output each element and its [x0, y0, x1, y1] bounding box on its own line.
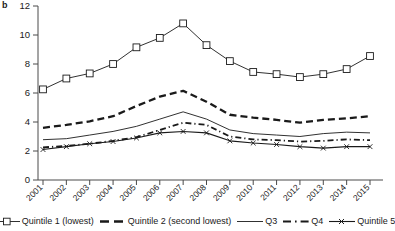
legend-item[interactable]: Quintile 5: [329, 216, 395, 227]
data-point-marker: [180, 20, 187, 27]
series-1: [40, 20, 374, 93]
x-axis-ticks: 2001200220032004200520062007200820092010…: [24, 180, 372, 203]
legend-key-line-solid-thin-icon: [237, 216, 263, 227]
x-axis: 2001200220032004200520062007200820092010…: [24, 180, 383, 203]
series-layer: [40, 20, 374, 152]
data-point-marker: [133, 44, 140, 51]
series-5: [41, 129, 373, 152]
x-tick-label: 2012: [281, 182, 302, 203]
x-tick-label: 2005: [117, 182, 138, 203]
x-tick-label: 2002: [47, 182, 68, 203]
y-tick-label: 4: [25, 116, 30, 127]
data-point-marker: [320, 71, 327, 78]
data-point-marker: [40, 86, 47, 93]
legend-item-label: Quintile 2 (second lowest): [128, 216, 232, 227]
data-point-marker: [297, 74, 304, 81]
data-point-marker: [63, 75, 70, 82]
y-tick-label: 0: [25, 174, 30, 185]
chart-legend: Quintile 1 (lowest)Quintile 2 (second lo…: [0, 213, 389, 229]
y-axis: 024681012: [19, 0, 38, 185]
legend-item-label: Q3: [265, 216, 277, 227]
data-point-marker: [110, 61, 117, 68]
x-tick-label: 2006: [141, 182, 162, 203]
data-point-marker: [250, 69, 257, 76]
y-tick-label: 2: [25, 145, 30, 156]
legend-key-line-dash-dot-icon: [283, 216, 309, 227]
x-tick-label: 2013: [304, 182, 325, 203]
x-tick-label: 2004: [94, 182, 115, 203]
legend-item[interactable]: Quintile 1 (lowest): [0, 216, 94, 227]
legend-key-line-open-square-icon: [0, 216, 20, 227]
x-tick-label: 2011: [258, 182, 278, 202]
line-chart: 024681012 200120022003200420052006200720…: [0, 0, 389, 213]
data-point-marker: [226, 58, 233, 65]
legend-item[interactable]: Q3: [237, 216, 277, 227]
legend-key-line-dashed-thick-icon: [100, 216, 126, 227]
data-point-marker: [203, 42, 210, 49]
legend-key-line-x-marker-icon: [329, 216, 355, 227]
x-tick-label: 2014: [328, 182, 349, 203]
y-tick-label: 6: [25, 87, 30, 98]
x-tick-label: 2015: [351, 182, 372, 203]
legend-item-label: Quintile 1 (lowest): [22, 216, 94, 227]
y-axis-ticks: 024681012: [19, 0, 38, 185]
x-tick-label: 2007: [164, 182, 185, 203]
legend-item[interactable]: Quintile 2 (second lowest): [100, 216, 232, 227]
y-tick-label: 12: [19, 0, 30, 11]
data-point-marker: [86, 70, 93, 77]
legend-item-label: Q4: [311, 216, 323, 227]
series-2: [43, 91, 370, 128]
series-line: [43, 23, 370, 89]
data-point-marker: [343, 66, 350, 73]
series-3: [43, 112, 370, 140]
legend-item[interactable]: Q4: [283, 216, 323, 227]
x-tick-label: 2009: [211, 182, 232, 203]
y-tick-label: 8: [25, 58, 30, 69]
series-line: [43, 91, 370, 128]
y-tick-label: 10: [19, 29, 30, 40]
x-tick-label: 2008: [187, 182, 208, 203]
x-tick-label: 2010: [234, 182, 255, 203]
legend-item-label: Quintile 5: [357, 216, 395, 227]
data-point-marker: [156, 35, 163, 42]
series-line: [43, 112, 370, 140]
data-point-marker: [367, 53, 374, 60]
data-point-marker: [273, 71, 280, 78]
x-tick-label: 2003: [71, 182, 92, 203]
